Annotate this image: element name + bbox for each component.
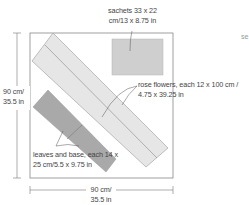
cutting-diagram: [0, 0, 249, 205]
edge-text: se: [241, 32, 248, 42]
leaves-base-label: leaves and base, each 14 x 25 cm/5.5 x 9…: [33, 150, 118, 169]
sachet-piece: [112, 39, 163, 75]
rose-flowers-label: rose flowers, each 12 x 100 cm / 4.75 x …: [138, 80, 238, 99]
width-label: 90 cm/ 35.5 in: [86, 185, 116, 204]
sachet-label: sachets 33 x 22 cm/13 x 8.75 in: [108, 6, 157, 25]
height-label: 90 cm/ 35.5 in: [3, 87, 24, 106]
